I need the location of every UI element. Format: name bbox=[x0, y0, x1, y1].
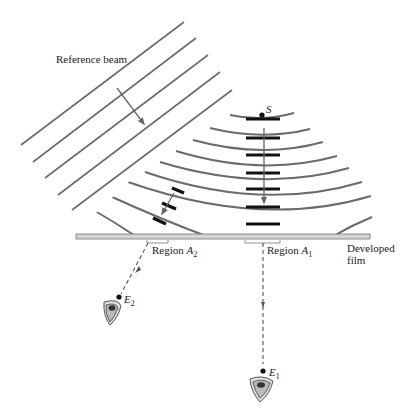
region-a2-bracket bbox=[147, 240, 168, 243]
source-label: S bbox=[266, 103, 272, 115]
eye-e2-label: E2 bbox=[123, 293, 135, 308]
hologram-diagram: Reference beam S Region A2 Region bbox=[0, 0, 408, 413]
region-a1-bracket bbox=[245, 240, 280, 243]
ray-e1-arrowhead bbox=[261, 302, 265, 308]
reference-beam-wavefronts bbox=[21, 22, 232, 210]
region-a1-label: Region A1 bbox=[267, 244, 312, 259]
developed-film bbox=[76, 234, 370, 239]
reference-beam-label: Reference beam bbox=[56, 53, 128, 65]
eye-e1-icon bbox=[250, 377, 273, 402]
eye-e2-icon bbox=[104, 301, 121, 325]
oblique-dark-segments bbox=[153, 188, 184, 224]
eye-e2-point bbox=[116, 294, 121, 299]
film-label: film bbox=[347, 254, 366, 266]
region-a2-label: Region A2 bbox=[152, 244, 197, 259]
ray-to-e2 bbox=[121, 243, 148, 294]
eye-e1-point bbox=[260, 368, 265, 373]
developed-label: Developed bbox=[347, 242, 395, 254]
diagram-canvas: Reference beam S Region A2 Region bbox=[0, 0, 408, 413]
ray-e2-arrowhead bbox=[135, 266, 141, 273]
source-point bbox=[259, 112, 264, 117]
object-wavefronts bbox=[90, 113, 372, 248]
